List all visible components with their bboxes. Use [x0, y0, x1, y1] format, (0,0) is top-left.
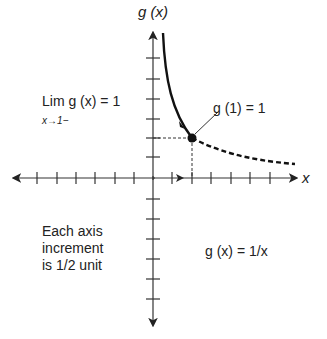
point-g1: [188, 134, 197, 143]
y-axis-label: g (x): [138, 4, 168, 20]
limit-subscript: x→1−: [42, 113, 68, 129]
function-label: g (x) = 1/x: [205, 243, 268, 259]
curve-left: [163, 33, 192, 138]
note-line-1: Each axis: [42, 223, 103, 239]
note-line-3: is 1/2 unit: [42, 257, 102, 273]
chart-graph: [0, 0, 327, 339]
note-line-2: increment: [42, 240, 103, 256]
x-axis-label: x: [302, 170, 310, 186]
limit-label: Lim g (x) = 1: [42, 93, 120, 109]
point-label: g (1) = 1: [213, 100, 266, 116]
curve-right: [192, 138, 295, 164]
